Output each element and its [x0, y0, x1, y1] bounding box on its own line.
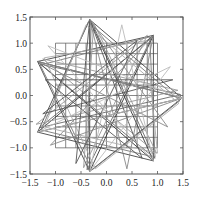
x-tick-label: 0.0 — [101, 178, 113, 188]
x-tick-label: −1.0 — [47, 178, 64, 188]
chart: −1.5−1.0−0.50.00.51.01.5 1.51.00.50.0−0.… — [0, 0, 198, 198]
y-tick-label: −0.5 — [10, 117, 27, 127]
x-tick-label: −0.5 — [72, 178, 89, 188]
y-tick-label: 0.5 — [15, 65, 27, 75]
x-tick-label: 1.0 — [152, 178, 164, 188]
x-tick-label: 0.5 — [126, 178, 138, 188]
y-tick-label: 1.5 — [15, 13, 27, 23]
y-tick-label: 1.0 — [15, 39, 27, 49]
x-tick-label: 1.5 — [177, 178, 189, 188]
y-tick-label: 0.0 — [15, 91, 27, 101]
y-tick-label: −1.0 — [10, 143, 27, 153]
y-tick-label: −1.5 — [10, 170, 27, 180]
x-tick-label: −1.5 — [21, 178, 38, 188]
